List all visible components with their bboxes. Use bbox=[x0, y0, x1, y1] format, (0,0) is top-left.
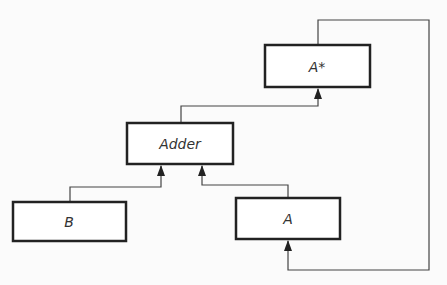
a-to-adder-connector bbox=[202, 166, 288, 198]
node-a: A bbox=[236, 198, 340, 239]
b-to-adder-connector bbox=[70, 166, 161, 202]
arrow-into-a-icon bbox=[284, 240, 292, 251]
block-diagram: A* Adder B A bbox=[0, 0, 447, 285]
node-a-star-label: A* bbox=[308, 59, 326, 75]
node-b: B bbox=[13, 202, 126, 241]
arrow-into-adder-left-icon bbox=[157, 165, 165, 176]
node-a-label: A bbox=[282, 211, 293, 227]
arrow-into-adder-right-icon bbox=[198, 165, 206, 176]
arrow-into-astar-icon bbox=[314, 88, 322, 99]
node-a-star: A* bbox=[265, 45, 370, 87]
node-adder-label: Adder bbox=[158, 136, 202, 152]
node-adder: Adder bbox=[127, 123, 233, 164]
node-b-label: B bbox=[64, 214, 74, 230]
adder-to-astar-connector bbox=[181, 89, 318, 123]
